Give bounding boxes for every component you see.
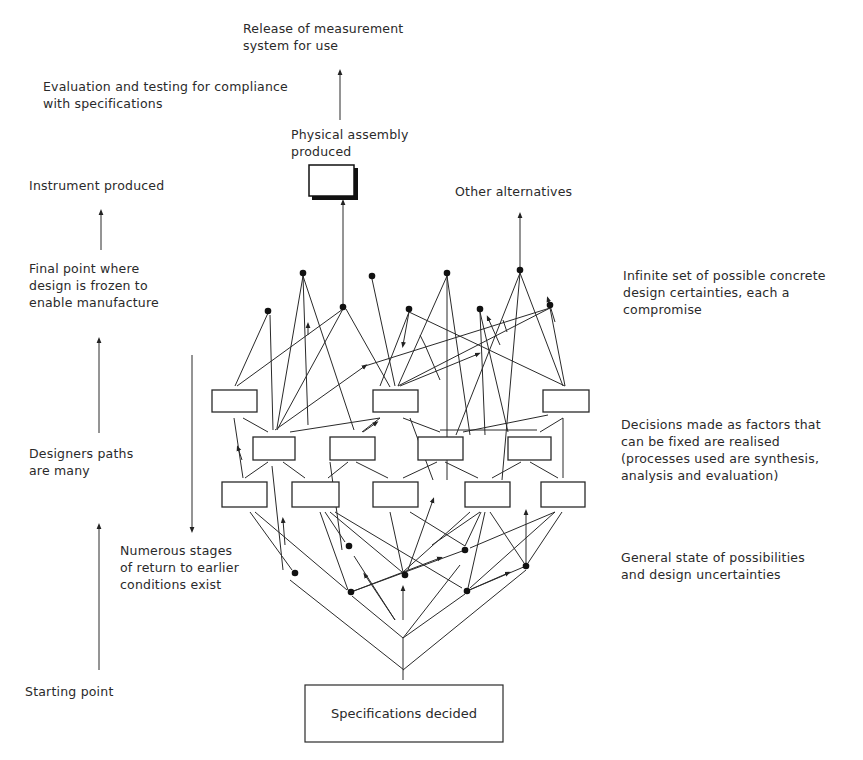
specifications-label: Specifications decided <box>305 685 503 742</box>
decision-boxes <box>212 390 589 507</box>
decision-dots <box>265 267 554 596</box>
left-progress-arrows <box>99 212 192 670</box>
lower-edges <box>250 500 562 680</box>
design-network-diagram <box>0 0 863 760</box>
physical-assembly-box <box>309 165 358 200</box>
